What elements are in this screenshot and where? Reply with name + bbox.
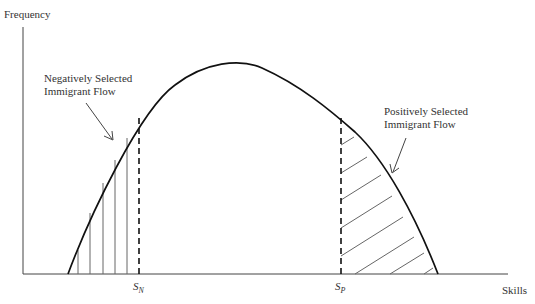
positive-arrow bbox=[393, 138, 406, 172]
sn-label: SN bbox=[133, 280, 144, 297]
negative-annotation: Negatively Selected Immigrant Flow bbox=[44, 72, 132, 98]
selection-diagram bbox=[0, 0, 535, 304]
sp-label: SP bbox=[335, 280, 345, 297]
negative-hatch bbox=[78, 138, 127, 274]
positive-annotation: Positively Selected Immigrant Flow bbox=[384, 105, 468, 131]
x-axis-label: Skills bbox=[502, 284, 527, 297]
y-axis-label: Frequency bbox=[4, 8, 50, 21]
negative-arrow bbox=[86, 103, 112, 139]
positive-hatch bbox=[341, 137, 433, 274]
